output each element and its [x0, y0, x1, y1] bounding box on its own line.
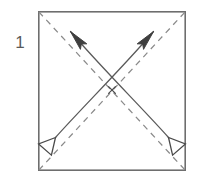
origami-step-diagram: 1 [0, 0, 202, 179]
origami-figure [0, 0, 202, 179]
